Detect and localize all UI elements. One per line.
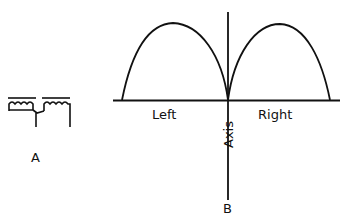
panel-a-label: A <box>31 150 40 165</box>
panel-b-label: B <box>223 201 232 214</box>
coil-junction <box>33 110 44 113</box>
right-coil <box>44 102 70 127</box>
left-lobe <box>122 23 228 100</box>
left-label: Left <box>152 107 176 122</box>
axis-label: Axis <box>221 121 236 148</box>
right-lobe <box>228 24 330 100</box>
polar-pattern <box>113 12 340 200</box>
coil-assembly <box>8 98 70 127</box>
right-label: Right <box>258 107 292 122</box>
left-coil <box>9 102 33 111</box>
